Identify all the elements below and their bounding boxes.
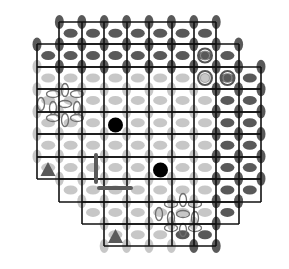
dark-dot: [243, 163, 257, 172]
light-dot: [198, 163, 212, 172]
light-dot: [198, 118, 212, 127]
dark-dot: [86, 29, 100, 38]
game-board[interactable]: [0, 0, 289, 269]
light-dot: [176, 118, 190, 127]
light-dot: [176, 96, 190, 105]
dark-dot: [108, 51, 122, 60]
dark-dot: [243, 118, 257, 127]
dark-dot: [176, 230, 190, 239]
dark-dot: [153, 29, 167, 38]
black-stone-piece[interactable]: [153, 163, 168, 178]
light-dot: [131, 96, 145, 105]
light-dot: [176, 74, 190, 83]
light-dot: [108, 208, 122, 217]
dark-dot: [220, 163, 234, 172]
dark-dot: [243, 141, 257, 150]
black-stone-piece[interactable]: [108, 118, 123, 133]
light-dot: [108, 74, 122, 83]
light-dot: [41, 74, 55, 83]
dark-dot: [86, 51, 100, 60]
light-dot: [153, 141, 167, 150]
outline-oval-marker: [180, 194, 187, 207]
light-dot: [153, 74, 167, 83]
light-dot: [108, 141, 122, 150]
dark-dot: [243, 96, 257, 105]
light-dot: [86, 74, 100, 83]
dark-dot: [220, 51, 234, 60]
dark-dot: [198, 230, 212, 239]
dark-dot: [176, 51, 190, 60]
dark-dot: [64, 51, 78, 60]
light-dot: [108, 163, 122, 172]
dark-dot: [243, 186, 257, 195]
light-dot: [131, 74, 145, 83]
dark-dot: [220, 118, 234, 127]
light-dot: [64, 186, 78, 195]
light-dot: [131, 118, 145, 127]
light-dot: [41, 141, 55, 150]
light-dot: [131, 230, 145, 239]
light-dot: [64, 141, 78, 150]
light-dot: [176, 141, 190, 150]
dark-dot: [220, 208, 234, 217]
light-dot: [86, 96, 100, 105]
light-dot: [153, 96, 167, 105]
dark-dot: [176, 29, 190, 38]
dark-dot: [41, 51, 55, 60]
light-dot: [198, 141, 212, 150]
dark-dot: [243, 74, 257, 83]
light-dot: [153, 230, 167, 239]
dark-dot: [198, 29, 212, 38]
dark-dot: [64, 29, 78, 38]
light-dot: [131, 163, 145, 172]
light-dot: [64, 74, 78, 83]
light-dot: [198, 96, 212, 105]
light-dot: [198, 208, 212, 217]
dark-dot: [198, 51, 212, 60]
dark-dot: [108, 29, 122, 38]
light-dot: [153, 118, 167, 127]
dark-dot: [131, 29, 145, 38]
dark-dot: [131, 51, 145, 60]
light-dot: [86, 141, 100, 150]
light-dot: [153, 186, 167, 195]
light-dot: [198, 186, 212, 195]
dark-dot: [153, 51, 167, 60]
light-dot: [131, 208, 145, 217]
light-dot: [131, 186, 145, 195]
light-dot: [176, 163, 190, 172]
light-dot: [86, 208, 100, 217]
light-dot: [86, 118, 100, 127]
dark-dot: [220, 96, 234, 105]
dark-dot: [220, 186, 234, 195]
light-dot: [131, 141, 145, 150]
light-dot: [108, 96, 122, 105]
dark-dot: [220, 141, 234, 150]
light-dot: [64, 163, 78, 172]
